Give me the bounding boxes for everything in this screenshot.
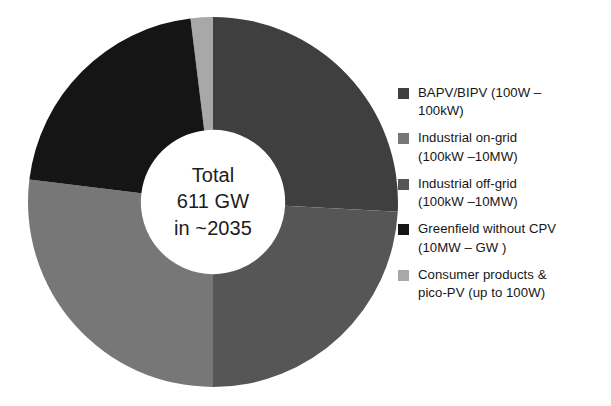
legend-swatch-icon bbox=[398, 179, 409, 190]
legend-swatch-icon bbox=[398, 88, 409, 99]
legend-item[interactable]: Industrial on-grid (100kW –10MW) bbox=[398, 129, 606, 165]
legend-item[interactable]: Industrial off-grid (100kW –10MW) bbox=[398, 175, 606, 211]
donut-svg: Consumer products & pico-PV (up to 100W)… bbox=[0, 0, 400, 406]
donut-chart-figure: Consumer products & pico-PV (up to 100W)… bbox=[0, 0, 611, 406]
legend-item-label: Industrial on-grid (100kW –10MW) bbox=[418, 129, 518, 165]
legend-item[interactable]: BAPV/BIPV (100W – 100kW) bbox=[398, 84, 606, 120]
legend-swatch-icon bbox=[398, 270, 409, 281]
legend-item-label: Consumer products & pico-PV (up to 100W) bbox=[418, 266, 547, 302]
donut-segment[interactable]: Industrial on-grid (100kW –10MW) bbox=[28, 179, 213, 387]
donut-segments: Consumer products & pico-PV (up to 100W)… bbox=[28, 17, 398, 387]
donut-segment[interactable]: Industrial off-grid (100kW –10MW) bbox=[213, 206, 398, 387]
donut-segment[interactable]: Greenfield without CPV (10MW – GW ) bbox=[29, 18, 204, 193]
legend-item[interactable]: Greenfield without CPV (10MW – GW ) bbox=[398, 220, 606, 256]
legend-item-label: Industrial off-grid (100kW –10MW) bbox=[418, 175, 518, 211]
donut-chart-area: Consumer products & pico-PV (up to 100W)… bbox=[0, 0, 400, 406]
legend-item[interactable]: Consumer products & pico-PV (up to 100W) bbox=[398, 266, 606, 302]
legend-swatch-icon bbox=[398, 224, 409, 235]
legend-item-label: BAPV/BIPV (100W – 100kW) bbox=[418, 84, 541, 120]
chart-legend: BAPV/BIPV (100W – 100kW)Industrial on-gr… bbox=[398, 84, 606, 311]
legend-swatch-icon bbox=[398, 133, 409, 144]
legend-item-label: Greenfield without CPV (10MW – GW ) bbox=[418, 220, 556, 256]
donut-segment[interactable]: BAPV/BIPV (100W – 100kW) bbox=[213, 17, 398, 212]
